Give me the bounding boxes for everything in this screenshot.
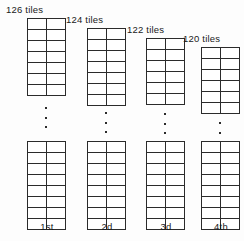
tile-row <box>202 153 240 164</box>
tile-block-top-3 <box>146 38 185 105</box>
tile <box>47 85 66 96</box>
tile <box>221 142 240 153</box>
tile <box>107 142 126 153</box>
tile <box>221 186 240 197</box>
tile <box>28 30 47 41</box>
tile-row <box>88 164 126 175</box>
tile <box>147 83 166 94</box>
tile-row <box>202 81 240 92</box>
tile-sequence-figure: 126 tiles1st124 tiles2d122 tiles3d120 ti… <box>0 0 244 241</box>
tile <box>221 164 240 175</box>
tile-row <box>202 175 240 186</box>
vertical-ellipsis-icon-2 <box>87 112 125 133</box>
tile <box>47 208 66 219</box>
tile-row <box>147 197 185 208</box>
tile <box>28 63 47 74</box>
tile-row <box>147 83 185 94</box>
tile-row <box>147 142 185 153</box>
ellipsis-dot <box>219 122 221 124</box>
tile <box>221 59 240 70</box>
tile <box>202 70 221 81</box>
tile <box>147 197 166 208</box>
tile-row <box>28 164 66 175</box>
ellipsis-dot <box>105 112 107 114</box>
tile-count-label-1: 126 tiles <box>6 4 43 15</box>
tile <box>166 94 185 105</box>
tile-row <box>202 48 240 59</box>
tile <box>47 63 66 74</box>
tile-row <box>88 142 126 153</box>
tile <box>221 197 240 208</box>
ellipsis-dot <box>45 117 47 119</box>
tile-row <box>28 41 66 52</box>
tile <box>107 186 126 197</box>
ordinal-label-2: 2d <box>87 221 127 232</box>
tile <box>28 208 47 219</box>
tile <box>88 175 107 186</box>
tile <box>28 197 47 208</box>
tile <box>88 29 107 40</box>
tile <box>107 95 126 106</box>
tile <box>202 186 221 197</box>
tile <box>202 153 221 164</box>
tile <box>28 186 47 197</box>
tile <box>47 142 66 153</box>
tile <box>166 61 185 72</box>
tile-row <box>202 164 240 175</box>
tile-row <box>28 153 66 164</box>
ellipsis-dot <box>164 113 166 115</box>
tile <box>147 72 166 83</box>
tile <box>107 197 126 208</box>
tile <box>147 175 166 186</box>
tile-row <box>88 29 126 40</box>
tile <box>221 153 240 164</box>
tile-row <box>147 164 185 175</box>
tile <box>88 62 107 73</box>
tile-row <box>88 153 126 164</box>
tile <box>47 164 66 175</box>
tile-row <box>28 52 66 63</box>
tile <box>28 74 47 85</box>
tile <box>202 197 221 208</box>
tile <box>202 48 221 59</box>
tile <box>107 29 126 40</box>
tile <box>107 40 126 51</box>
tile <box>88 164 107 175</box>
tile <box>221 48 240 59</box>
vertical-ellipsis-icon-4 <box>201 122 239 143</box>
tile-row <box>202 142 240 153</box>
tile <box>166 83 185 94</box>
tile <box>202 92 221 103</box>
tile <box>47 153 66 164</box>
tile <box>28 153 47 164</box>
vertical-ellipsis-icon-1 <box>27 107 65 128</box>
tile <box>221 70 240 81</box>
tile <box>107 153 126 164</box>
tile <box>202 103 221 114</box>
tile <box>28 41 47 52</box>
tile-row <box>202 103 240 114</box>
vertical-ellipsis-icon-3 <box>146 113 184 134</box>
tile-count-label-3: 122 tiles <box>127 24 164 35</box>
tile <box>166 72 185 83</box>
tile-row <box>28 197 66 208</box>
tile-row <box>28 30 66 41</box>
tile <box>28 142 47 153</box>
tile-block-bottom-4 <box>201 141 240 230</box>
tile <box>47 186 66 197</box>
tile-block-top-2 <box>87 28 126 106</box>
tile <box>221 208 240 219</box>
tile-row <box>88 197 126 208</box>
tile-row <box>202 197 240 208</box>
tile <box>88 208 107 219</box>
tile-row <box>88 73 126 84</box>
tile-row <box>28 63 66 74</box>
tile-row <box>147 39 185 50</box>
tile <box>221 103 240 114</box>
tile <box>221 92 240 103</box>
tile <box>147 39 166 50</box>
ordinal-label-4: 4th <box>201 221 241 232</box>
tile-row <box>202 186 240 197</box>
tile <box>166 175 185 186</box>
tile-row <box>147 153 185 164</box>
